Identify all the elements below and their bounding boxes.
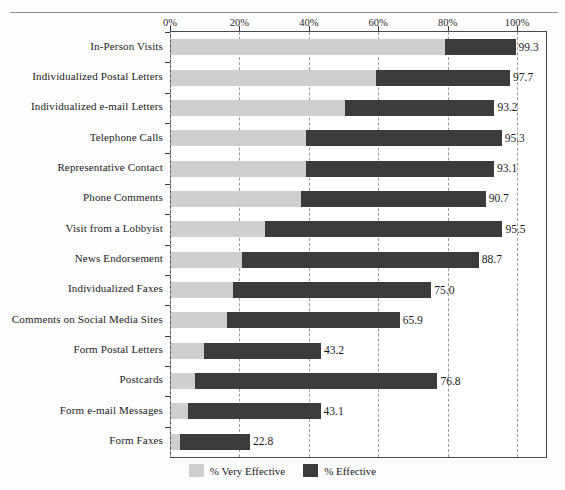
bar-segment-very-effective bbox=[171, 434, 180, 450]
legend-label: % Very Effective bbox=[210, 465, 285, 477]
x-axis-tick-mark bbox=[239, 26, 240, 31]
y-axis-tick-mark bbox=[165, 123, 170, 124]
y-axis-tick-mark bbox=[165, 214, 170, 215]
stacked-bar bbox=[171, 100, 494, 116]
category-label: Representative Contact bbox=[0, 161, 163, 173]
y-axis-tick-mark bbox=[165, 184, 170, 185]
category-label: Telephone Calls bbox=[0, 131, 163, 143]
bar-segment-effective bbox=[188, 403, 320, 419]
y-axis-tick-mark bbox=[165, 245, 170, 246]
chart-legend: % Very Effective% Effective bbox=[0, 464, 565, 477]
y-axis-tick-mark bbox=[165, 366, 170, 367]
bar-row: Form Faxes22.8 bbox=[0, 427, 565, 457]
stacked-bar bbox=[171, 70, 510, 86]
legend-label: % Effective bbox=[324, 465, 376, 477]
category-label: Form Postal Letters bbox=[0, 343, 163, 355]
stacked-bar bbox=[171, 252, 479, 268]
stacked-bar bbox=[171, 191, 486, 207]
bar-segment-very-effective bbox=[171, 282, 233, 298]
bar-segment-effective bbox=[233, 282, 431, 298]
bar-segment-effective bbox=[306, 161, 494, 177]
bar-value-label: 95.3 bbox=[505, 132, 525, 144]
bar-value-label: 99.3 bbox=[519, 41, 539, 53]
category-label: Individualized Postal Letters bbox=[0, 70, 163, 82]
bar-segment-very-effective bbox=[171, 373, 195, 389]
cropped-title-text bbox=[150, 0, 450, 5]
bar-segment-effective bbox=[180, 434, 250, 450]
dark-gray-swatch bbox=[303, 464, 318, 477]
bar-row: In-Person Visits99.3 bbox=[0, 32, 565, 62]
bar-row: Individualized Faxes75.0 bbox=[0, 275, 565, 305]
category-label: Postcards bbox=[0, 373, 163, 385]
bar-value-label: 43.2 bbox=[324, 344, 344, 356]
bar-segment-very-effective bbox=[171, 70, 376, 86]
bar-row: Telephone Calls95.3 bbox=[0, 123, 565, 153]
y-axis-tick-mark bbox=[165, 305, 170, 306]
bar-rows: In-Person Visits99.3Individualized Posta… bbox=[0, 32, 565, 457]
bar-value-label: 90.7 bbox=[489, 192, 509, 204]
bar-segment-effective bbox=[227, 312, 400, 328]
legend-item: % Very Effective bbox=[189, 464, 285, 477]
category-label: Individualized Faxes bbox=[0, 282, 163, 294]
x-axis-tick-mark bbox=[309, 26, 310, 31]
stacked-bar bbox=[171, 161, 494, 177]
y-axis-tick-mark bbox=[165, 32, 170, 33]
bar-row: Individualized Postal Letters97.7 bbox=[0, 62, 565, 92]
bar-value-label: 65.9 bbox=[403, 314, 423, 326]
stacked-bar bbox=[171, 312, 400, 328]
x-axis-tick-mark bbox=[378, 26, 379, 31]
bar-segment-very-effective bbox=[171, 39, 445, 55]
y-axis-tick-mark bbox=[165, 336, 170, 337]
category-label: News Endorsement bbox=[0, 252, 163, 264]
bar-value-label: 93.2 bbox=[497, 101, 517, 113]
x-axis-tick-mark bbox=[170, 26, 171, 31]
stacked-bar bbox=[171, 282, 431, 298]
legend-item: % Effective bbox=[303, 464, 376, 477]
bar-value-label: 76.8 bbox=[440, 375, 460, 387]
category-label: Phone Comments bbox=[0, 191, 163, 203]
bar-row: Individualized e-mail Letters93.2 bbox=[0, 93, 565, 123]
bar-value-label: 43.1 bbox=[324, 405, 344, 417]
y-axis-tick-mark bbox=[165, 153, 170, 154]
bar-segment-effective bbox=[195, 373, 437, 389]
bar-row: Visit from a Lobbyist95.5 bbox=[0, 214, 565, 244]
bar-value-label: 88.7 bbox=[482, 253, 502, 265]
category-label: Form Faxes bbox=[0, 434, 163, 446]
x-axis-tick-labels: 0%20%40%60%80%100% bbox=[0, 17, 565, 30]
bar-value-label: 22.8 bbox=[253, 435, 273, 447]
bar-row: Phone Comments90.7 bbox=[0, 184, 565, 214]
bar-segment-very-effective bbox=[171, 130, 306, 146]
stacked-bar bbox=[171, 373, 437, 389]
top-horizontal-rule bbox=[10, 12, 558, 13]
stacked-bar bbox=[171, 434, 250, 450]
y-axis-tick-mark bbox=[165, 93, 170, 94]
y-axis-tick-mark bbox=[165, 62, 170, 63]
category-label: Comments on Social Media Sites bbox=[0, 313, 163, 325]
stacked-bar-chart: 0%20%40%60%80%100% In-Person Visits99.3I… bbox=[0, 0, 565, 490]
bar-segment-effective bbox=[306, 130, 501, 146]
bar-row: News Endorsement88.7 bbox=[0, 245, 565, 275]
bar-row: Postcards76.8 bbox=[0, 366, 565, 396]
y-axis-tick-mark bbox=[165, 396, 170, 397]
bar-value-label: 95.5 bbox=[505, 223, 525, 235]
bar-row: Comments on Social Media Sites65.9 bbox=[0, 305, 565, 335]
bar-segment-very-effective bbox=[171, 161, 306, 177]
category-label: Form e-mail Messages bbox=[0, 404, 163, 416]
category-label: In-Person Visits bbox=[0, 40, 163, 52]
bar-segment-very-effective bbox=[171, 403, 188, 419]
bar-row: Representative Contact93.1 bbox=[0, 153, 565, 183]
bar-segment-effective bbox=[242, 252, 479, 268]
stacked-bar bbox=[171, 39, 516, 55]
x-axis-tick-mark bbox=[448, 26, 449, 31]
bar-value-label: 93.1 bbox=[497, 162, 517, 174]
bar-segment-very-effective bbox=[171, 100, 345, 116]
bar-row: Form e-mail Messages43.1 bbox=[0, 396, 565, 426]
stacked-bar bbox=[171, 403, 321, 419]
light-gray-swatch bbox=[189, 464, 204, 477]
bar-segment-very-effective bbox=[171, 191, 301, 207]
bar-segment-very-effective bbox=[171, 221, 265, 237]
bar-segment-very-effective bbox=[171, 252, 242, 268]
bar-segment-effective bbox=[265, 221, 503, 237]
stacked-bar bbox=[171, 221, 502, 237]
bar-value-label: 75.0 bbox=[434, 284, 454, 296]
